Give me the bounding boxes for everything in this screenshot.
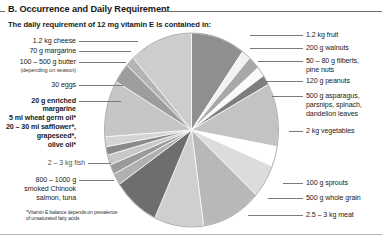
label-fruit: 1.2 kg fruit — [306, 31, 382, 40]
vitamin-e-infographic-panel: B. Occurrence and Daily Requirement The … — [0, 0, 382, 238]
leader-line-whole-grain — [268, 198, 303, 199]
label-enriched-margarine-line2: margarine — [0, 105, 76, 114]
subtitle: The daily requirement of 12 mg vitamin E… — [8, 20, 211, 29]
leader-line-enriched-margarine — [79, 101, 121, 102]
label-salmon-line2: smoked Chinook — [0, 185, 76, 194]
label-asparagus-line3: dandelion leaves — [306, 110, 382, 119]
label-meat: 2.5 – 3 kg meat — [306, 211, 382, 220]
label-filberts-line2: pine nuts — [306, 66, 382, 75]
leader-line-asparagus — [272, 96, 303, 97]
label-peanuts: 120 g peanuts — [306, 77, 382, 86]
label-salmon-line1: 800 – 1000 g — [0, 176, 76, 185]
label-butter: 100 – 500 g butter — [0, 58, 76, 67]
label-wheat-germ-oil: 5 ml wheat germ oil* — [0, 114, 76, 123]
leader-line-butter — [79, 62, 126, 63]
label-safflower-oil: 20 – 30 ml safflower*, — [0, 123, 76, 132]
leader-line-salmon — [79, 180, 114, 181]
label-butter-note: (depending on season) — [0, 67, 76, 74]
pie-chart-svg — [104, 30, 279, 230]
label-eggs: 30 eggs — [0, 81, 76, 90]
leader-line-cheese — [79, 41, 138, 42]
page-title: B. Occurrence and Daily Requirement — [8, 4, 169, 14]
leader-line-meat — [248, 215, 303, 216]
label-sprouts: 100 g sprouts — [306, 179, 382, 188]
label-filberts-line1: 50 – 80 g filberts, — [306, 57, 382, 66]
label-walnuts: 200 g walnuts — [306, 44, 382, 53]
label-asparagus-line1: 500 g asparagus, — [306, 92, 382, 101]
label-salmon-line3: salmon, tuna — [0, 194, 76, 203]
leader-line-margarine — [79, 51, 131, 52]
bottom-divider — [0, 234, 382, 235]
header-rule — [160, 11, 382, 12]
header-left-dash — [0, 11, 5, 12]
leader-line-sprouts — [283, 183, 303, 184]
footnote-line2: of unsaturated fatty acids — [26, 216, 79, 222]
label-vegetables: 2 kg vegetables — [306, 127, 382, 136]
label-grapeseed-oil: grapeseed*, — [0, 132, 76, 141]
label-fish: 2 – 3 kg fish — [0, 159, 85, 168]
label-olive-oil: olive oil* — [0, 141, 76, 150]
leader-line-walnuts — [250, 48, 303, 49]
leader-line-vegetables — [289, 131, 303, 132]
leader-line-peanuts — [266, 81, 303, 82]
section-header: B. Occurrence and Daily Requirement — [0, 4, 382, 18]
label-whole-grain: 500 g whole grain — [306, 194, 382, 203]
label-cheese: 1.2 kg cheese — [0, 37, 76, 46]
leader-line-filberts — [258, 61, 303, 62]
leader-line-fruit — [250, 35, 303, 36]
label-asparagus-line2: parsnips, spinach, — [306, 101, 382, 110]
label-margarine: 70 g margarine — [0, 47, 76, 56]
leader-line-fish — [88, 163, 111, 164]
leader-line-eggs — [79, 85, 123, 86]
pie-chart — [104, 30, 279, 230]
